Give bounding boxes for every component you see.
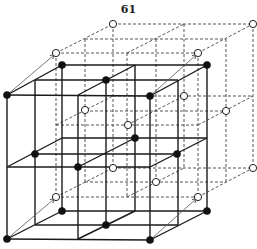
open-atom-icon bbox=[249, 164, 256, 171]
open-atom-icon bbox=[152, 178, 159, 185]
filled-atom-icon bbox=[3, 91, 10, 98]
open-atoms bbox=[52, 20, 256, 200]
open-atom-icon bbox=[249, 20, 256, 27]
filled-atom-icon bbox=[58, 207, 65, 214]
filled-atom-icon bbox=[131, 134, 138, 141]
dashed-edge bbox=[56, 168, 113, 197]
open-atom-icon bbox=[194, 49, 201, 56]
interpenetrating-cubic-lattice-diagram bbox=[0, 0, 257, 249]
filled-atom-icon bbox=[102, 221, 109, 228]
open-atom-icon bbox=[109, 20, 116, 27]
dashed-edge bbox=[198, 168, 253, 197]
dashed-edge bbox=[56, 24, 113, 53]
open-atom-icon bbox=[124, 121, 131, 128]
filled-atom-icon bbox=[146, 236, 153, 243]
open-atom-icon bbox=[194, 193, 201, 200]
filled-atom-icon bbox=[102, 76, 109, 83]
filled-atom-icon bbox=[203, 207, 210, 214]
filled-atom-icon bbox=[31, 150, 38, 157]
filled-atom-icon bbox=[74, 163, 81, 170]
open-atom-icon bbox=[109, 164, 116, 171]
open-atom-icon bbox=[222, 107, 229, 114]
filled-atom-icon bbox=[173, 150, 180, 157]
open-atom-icon bbox=[52, 49, 59, 56]
dashed-edge bbox=[127, 24, 184, 53]
filled-atom-icon bbox=[58, 61, 65, 68]
filled-atom-icon bbox=[203, 61, 210, 68]
filled-atom-icon bbox=[3, 235, 10, 242]
open-atom-icon bbox=[180, 92, 187, 99]
filled-atom-icon bbox=[146, 92, 153, 99]
dashed-edge bbox=[198, 24, 253, 53]
displacement-arrow-icon bbox=[7, 55, 54, 95]
open-atom-icon bbox=[52, 193, 59, 200]
open-atom-icon bbox=[81, 106, 88, 113]
